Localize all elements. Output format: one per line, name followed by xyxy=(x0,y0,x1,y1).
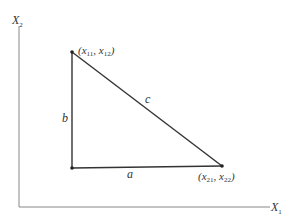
vertex-bottom-right-label: (x21, x22) xyxy=(198,170,235,184)
side-b-label: b xyxy=(62,111,68,125)
x-axis-label: X1 xyxy=(270,200,282,216)
side-a xyxy=(72,166,222,168)
side-a-label: a xyxy=(127,167,133,181)
vertex-top xyxy=(70,50,74,54)
vertex-bottom-left xyxy=(70,166,74,170)
side-c-label: c xyxy=(145,92,151,106)
vertex-top-label: (x11, x12) xyxy=(78,44,115,58)
vertex-bottom-right xyxy=(220,164,224,168)
y-axis-label: X2 xyxy=(11,13,23,29)
triangle-diagram: X2 X1 (x11, x12) (x21, x22) c b a xyxy=(0,0,289,223)
side-c xyxy=(72,52,222,166)
